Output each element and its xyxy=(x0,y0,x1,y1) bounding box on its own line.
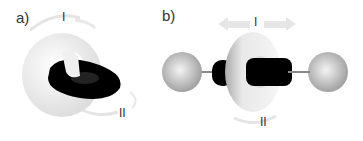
dark-cylinder-icon xyxy=(246,58,292,86)
motion-label-i: I xyxy=(62,10,65,24)
right-stopper-icon xyxy=(308,52,348,92)
left-stopper-icon xyxy=(162,52,202,92)
translation-arrow-left-icon xyxy=(218,17,250,31)
motion-label-ii: II xyxy=(260,115,267,129)
translation-arrow-right-icon xyxy=(264,17,296,31)
motion-label-ii: II xyxy=(119,106,126,120)
motion-label-i: I xyxy=(254,15,257,29)
rotation-arrow-ii-icon xyxy=(82,110,118,115)
panel-b-rotaxane: b) I II xyxy=(150,0,363,141)
rotation-arrow-i-icon xyxy=(30,16,80,30)
rotation-arrow-ii-icon xyxy=(234,116,276,123)
panel-a-catenane: a) I II xyxy=(0,0,160,141)
catenane-illustration xyxy=(0,0,160,141)
